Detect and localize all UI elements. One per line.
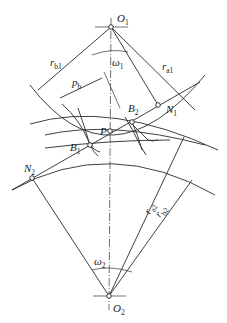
o2-n2-line — [32, 178, 109, 296]
label-p: P — [99, 125, 107, 137]
point-o2 — [107, 294, 112, 299]
label-o2: O2 — [113, 302, 125, 317]
base-circle-1 — [30, 75, 205, 135]
tooth-profile-right-1 — [125, 117, 146, 155]
label-n2: N2 — [23, 162, 35, 177]
label-ra1: ra1 — [162, 60, 174, 75]
omega2-arc — [92, 268, 132, 272]
tooth-profile-left-1 — [62, 104, 100, 152]
point-b2 — [130, 120, 135, 125]
label-o1: O1 — [117, 12, 129, 27]
label-omega1: ω1 — [112, 56, 124, 71]
point-b1 — [88, 143, 93, 148]
addendum-circle-1 — [30, 116, 218, 150]
label-pb: pb — [71, 76, 82, 91]
pb-extension — [104, 72, 120, 108]
ra2-line — [109, 137, 184, 296]
point-o1 — [109, 25, 114, 30]
rb2-line — [109, 180, 192, 296]
label-omega2: ω2 — [94, 255, 106, 270]
omega1-arc — [92, 51, 128, 55]
point-n1 — [156, 103, 161, 108]
gear-mesh-diagram: O1 O2 ω1 ω2 rb1 ra1 pb P B1 B2 N1 N2 ra2… — [0, 0, 227, 323]
tooth-profile-right-3 — [132, 122, 142, 150]
point-p — [108, 129, 113, 134]
label-rb1: rb1 — [50, 56, 62, 71]
label-b2: B2 — [128, 102, 139, 117]
